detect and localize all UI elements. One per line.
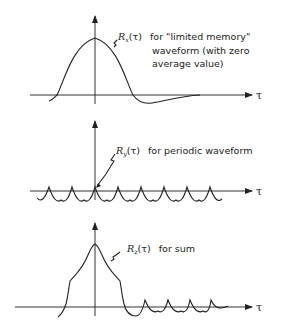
autocorrelation-diagram: τ Rx(τ) for "limited memory" waveform (w… [0,0,284,334]
rx-label: Rx(τ) for "limited memory" [117,26,250,44]
tau-axis-label: τ [256,301,262,314]
panel-periodic: τ Ry(τ) for periodic waveform [30,121,262,201]
leader-line [97,154,115,186]
panel-sum: τ Rz(τ) for sum [15,223,262,317]
rx-label-line3: average value) [152,58,224,69]
rz-curve [58,244,228,317]
ry-curve [37,187,222,201]
rx-label-line2: waveform (with zero [152,45,250,56]
leader-line [114,40,117,47]
leader-line [111,252,120,261]
tau-axis-label: τ [256,185,262,198]
rz-label: Rz(τ) for sum [126,238,195,256]
tau-axis-label: τ [256,89,262,102]
ry-label: Ry(τ) for periodic waveform [115,140,252,158]
panel-limited-memory: τ Rx(τ) for "limited memory" waveform (w… [30,16,262,104]
